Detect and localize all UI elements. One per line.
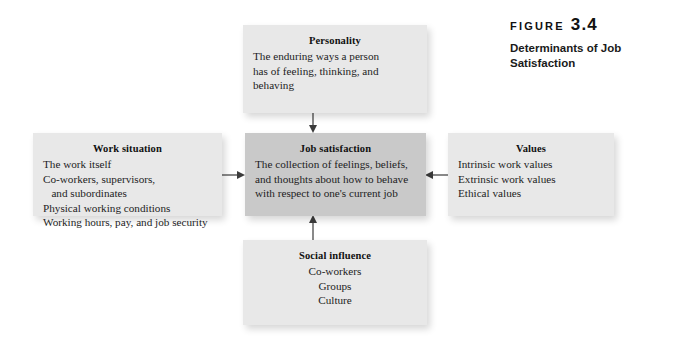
box-work-situation-lines: The work itself Co-workers, supervisors,… bbox=[43, 157, 212, 230]
box-job-satisfaction-line-2: and thoughts about how to behave bbox=[255, 172, 416, 187]
connector-work-situation-to-job-satisfaction bbox=[219, 167, 247, 183]
box-work-situation-line-1: The work itself bbox=[43, 157, 212, 172]
box-values-title: Values bbox=[458, 142, 604, 156]
figure-label: FIGURE bbox=[510, 20, 565, 32]
box-social-influence-line-2: Groups bbox=[253, 279, 417, 294]
box-values-lines: Intrinsic work values Extrinsic work val… bbox=[458, 157, 604, 201]
box-personality-line-2: has of feeling, thinking, and bbox=[253, 64, 417, 79]
box-personality-lines: The enduring ways a person has of feelin… bbox=[253, 49, 417, 93]
box-work-situation-line-4: Physical working conditions bbox=[43, 201, 212, 216]
box-work-situation-line-2: Co-workers, supervisors, bbox=[43, 172, 212, 187]
box-social-influence-line-1: Co-workers bbox=[253, 264, 417, 279]
connector-values-to-job-satisfaction bbox=[424, 167, 451, 183]
figure-number: 3.4 bbox=[571, 15, 598, 34]
box-work-situation-line-3: and subordinates bbox=[43, 186, 212, 201]
box-values-line-2: Extrinsic work values bbox=[458, 172, 604, 187]
box-values-line-3: Ethical values bbox=[458, 186, 604, 201]
box-personality-line-3: behaving bbox=[253, 78, 417, 93]
box-job-satisfaction-line-1: The collection of feelings, beliefs, bbox=[255, 157, 416, 172]
figure-title: Determinants of Job Satisfaction bbox=[510, 41, 685, 71]
box-job-satisfaction: Job satisfaction The collection of feeli… bbox=[245, 133, 426, 216]
box-work-situation-title: Work situation bbox=[43, 142, 212, 156]
figure-title-line-2: Satisfaction bbox=[510, 56, 685, 71]
box-job-satisfaction-title: Job satisfaction bbox=[255, 142, 416, 156]
box-values: Values Intrinsic work values Extrinsic w… bbox=[448, 133, 614, 216]
connector-social-influence-to-job-satisfaction bbox=[305, 214, 321, 242]
connector-personality-to-job-satisfaction bbox=[305, 111, 321, 135]
box-social-influence-lines: Co-workers Groups Culture bbox=[253, 264, 417, 308]
box-job-satisfaction-line-3: with respect to one's current job bbox=[255, 186, 416, 201]
box-work-situation: Work situation The work itself Co-worker… bbox=[33, 133, 222, 216]
box-personality-title: Personality bbox=[253, 34, 417, 48]
box-work-situation-line-5: Working hours, pay, and job security bbox=[43, 215, 212, 230]
box-social-influence-line-3: Culture bbox=[253, 293, 417, 308]
box-personality-line-1: The enduring ways a person bbox=[253, 49, 417, 64]
figure-caption-heading: FIGURE3.4 bbox=[510, 15, 685, 35]
figure-caption: FIGURE3.4 Determinants of Job Satisfacti… bbox=[510, 15, 685, 71]
box-personality: Personality The enduring ways a person h… bbox=[243, 25, 427, 113]
box-job-satisfaction-lines: The collection of feelings, beliefs, and… bbox=[255, 157, 416, 201]
box-values-line-1: Intrinsic work values bbox=[458, 157, 604, 172]
box-social-influence: Social influence Co-workers Groups Cultu… bbox=[243, 240, 427, 325]
figure-title-line-1: Determinants of Job bbox=[510, 41, 685, 56]
box-social-influence-title: Social influence bbox=[253, 249, 417, 263]
figure-canvas: Personality The enduring ways a person h… bbox=[0, 0, 694, 342]
